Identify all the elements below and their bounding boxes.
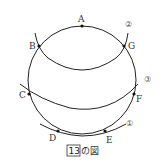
label-c: C (19, 90, 26, 100)
label-d: D (49, 133, 56, 143)
caption-number: 13 (69, 146, 80, 156)
main-circle (28, 26, 136, 134)
arc-label-1: ① (126, 119, 133, 128)
arc-3 (20, 84, 138, 109)
point-g (122, 44, 125, 47)
arc-label-3: ③ (144, 75, 151, 84)
point-d (56, 129, 59, 132)
caption-text: の図 (81, 146, 99, 156)
label-g: G (128, 41, 135, 51)
label-f: F (136, 94, 142, 104)
point-b (37, 44, 40, 47)
label-b: B (29, 41, 36, 51)
point-c (27, 92, 30, 95)
arc-2 (35, 33, 128, 70)
label-e: E (106, 135, 113, 145)
diagram: A B C D E F G ② ③ ① 13 の図 (0, 0, 162, 163)
label-a: A (77, 14, 85, 24)
point-e (103, 129, 106, 132)
arc-label-2: ② (125, 20, 132, 29)
point-a (80, 24, 83, 27)
